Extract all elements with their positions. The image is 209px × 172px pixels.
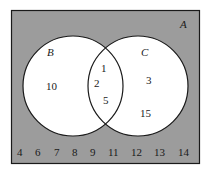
outside-element: 7	[54, 146, 60, 158]
outside-element: 12	[131, 146, 142, 158]
c-only-element: 15	[140, 107, 152, 119]
venn-diagram: A B C 10 1 2 5 3 15 4 6 7 8 9 11 12 13 1…	[0, 0, 209, 172]
set-c-label: C	[141, 46, 149, 58]
outside-element: 9	[90, 146, 96, 158]
intersection-element: 2	[94, 77, 100, 89]
b-only-element: 10	[46, 80, 58, 92]
intersection-element: 1	[101, 62, 107, 74]
set-a-label: A	[179, 18, 187, 30]
outside-element: 11	[108, 146, 119, 158]
c-only-element: 3	[146, 74, 152, 86]
outside-element: 14	[178, 146, 190, 158]
set-b-label: B	[47, 46, 54, 58]
outside-element: 4	[17, 146, 23, 158]
outside-element: 13	[154, 146, 166, 158]
outside-element: 6	[35, 146, 41, 158]
intersection-element: 5	[103, 94, 109, 106]
outside-element: 8	[72, 146, 78, 158]
